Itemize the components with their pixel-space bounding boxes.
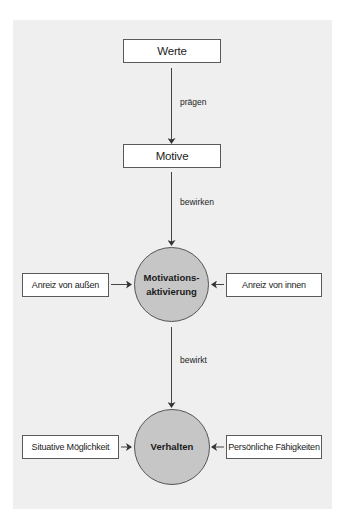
node-motivation-line2: aktivierung bbox=[144, 285, 200, 299]
node-anreiz-aussen-label: Anreiz von außen bbox=[32, 280, 99, 290]
node-situative-label: Situative Möglichkeit bbox=[32, 442, 110, 452]
node-persoenlich-label: Persönliche Fähigkeiten bbox=[228, 442, 319, 452]
node-anreiz-innen-label: Anreiz von innen bbox=[242, 280, 306, 290]
node-motivation-line1: Motivations- bbox=[144, 271, 200, 285]
node-anreiz-innen: Anreiz von innen bbox=[226, 273, 322, 297]
node-situative-moeglichkeit: Situative Möglichkeit bbox=[22, 435, 119, 459]
edge-label-bewirkt: bewirkt bbox=[180, 355, 207, 365]
node-verhalten: Verhalten bbox=[134, 409, 210, 485]
node-persoenliche-faehigkeiten: Persönliche Fähigkeiten bbox=[226, 435, 322, 459]
node-anreiz-aussen: Anreiz von außen bbox=[22, 273, 109, 297]
node-verhalten-label: Verhalten bbox=[151, 440, 194, 454]
edge-label-bewirken: bewirken bbox=[180, 197, 214, 207]
node-motive: Motive bbox=[123, 144, 221, 168]
node-motive-label: Motive bbox=[156, 150, 189, 162]
edge-label-praegen: prägen bbox=[180, 97, 206, 107]
node-motivationsaktivierung: Motivations- aktivierung bbox=[134, 247, 209, 322]
node-werte-label: Werte bbox=[157, 45, 186, 57]
node-werte: Werte bbox=[123, 39, 221, 63]
